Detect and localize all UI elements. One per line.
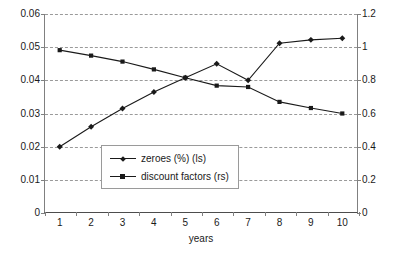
data-point-marker: [183, 76, 187, 80]
legend-item-discount-factors: discount factors (rs): [102, 168, 238, 186]
x-axis-tick-label: 7: [233, 217, 263, 228]
square-marker-icon: [110, 172, 136, 182]
x-axis-tick-label: 5: [170, 217, 200, 228]
data-point-marker: [58, 48, 62, 52]
series-line-1: [60, 38, 343, 146]
y-axis-left: 00.010.020.030.040.050.06: [0, 14, 40, 213]
data-point-marker: [215, 84, 219, 88]
x-axis-tick-label: 6: [202, 217, 232, 228]
y-axis-right-tick-label: 0.4: [362, 142, 376, 152]
y-axis-right-tick-label: 1: [362, 42, 368, 52]
data-point-marker: [151, 89, 157, 95]
y-axis-left-tick-label: 0.02: [6, 142, 40, 152]
y-axis-right-tick-label: 0.8: [362, 75, 376, 85]
data-point-marker: [89, 54, 93, 58]
data-point-marker: [277, 100, 281, 104]
data-point-marker: [88, 124, 94, 130]
data-point-marker: [308, 37, 314, 43]
x-axis-tick-label: 3: [108, 217, 138, 228]
data-point-marker: [57, 144, 63, 150]
y-axis-left-tick-label: 0.01: [6, 175, 40, 185]
chart-container: 00.010.020.030.040.050.06 00.20.40.60.81…: [0, 0, 409, 260]
data-point-marker: [214, 61, 220, 67]
series-line-2: [60, 50, 343, 113]
legend-label-discount-factors: discount factors (rs): [141, 172, 229, 182]
y-axis-right-tick-label: 0.2: [362, 175, 376, 185]
data-point-marker: [339, 35, 345, 41]
data-point-marker: [120, 106, 126, 112]
y-axis-left-tick-label: 0: [6, 208, 40, 218]
y-axis-right: 00.20.40.60.811.2: [362, 14, 406, 213]
y-axis-left-tick-label: 0.04: [6, 75, 40, 85]
data-point-marker: [152, 67, 156, 71]
data-point-marker: [309, 106, 313, 110]
data-point-marker: [246, 85, 250, 89]
x-axis-tick-label: 4: [139, 217, 169, 228]
x-axis-tick-label: 2: [76, 217, 106, 228]
legend: zeroes (%) (ls) discount factors (rs): [101, 145, 239, 189]
legend-item-zeroes: zeroes (%) (ls): [102, 150, 238, 168]
diamond-marker-icon: [110, 154, 136, 164]
x-axis-tick-label: 8: [265, 217, 295, 228]
data-point-marker: [340, 111, 344, 115]
x-axis-tick-label: 9: [296, 217, 326, 228]
data-point-marker: [120, 59, 124, 63]
x-axis-tick-label: 10: [327, 217, 357, 228]
legend-label-zeroes: zeroes (%) (ls): [141, 154, 206, 164]
y-axis-right-tick-label: 1.2: [362, 9, 376, 19]
x-axis-tick-label: 1: [45, 217, 75, 228]
x-axis-title: years: [44, 233, 358, 244]
y-axis-right-tick-label: 0.6: [362, 109, 376, 119]
y-axis-left-tick-label: 0.06: [6, 9, 40, 19]
x-tick: [359, 212, 360, 216]
y-axis-left-tick-label: 0.03: [6, 109, 40, 119]
y-axis-left-tick-label: 0.05: [6, 42, 40, 52]
y-axis-right-tick-label: 0: [362, 208, 368, 218]
